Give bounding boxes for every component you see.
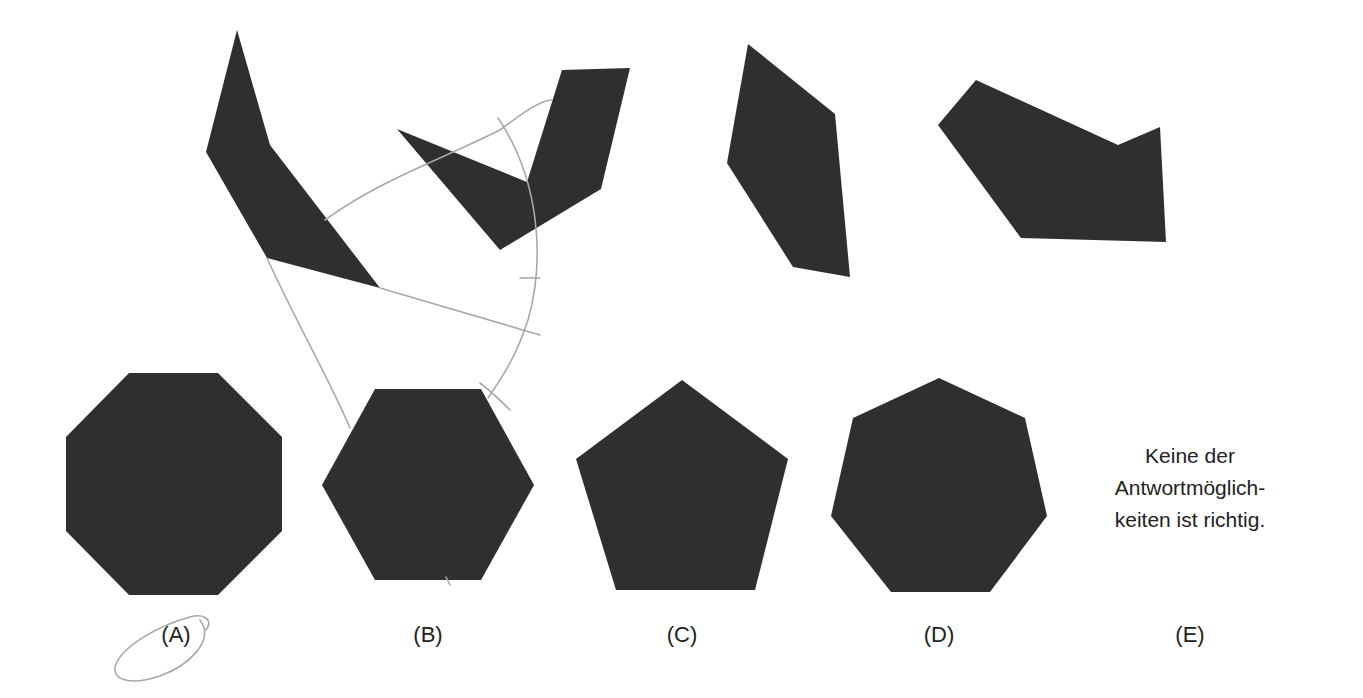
option-e-text-line-2: Antwortmöglich- [1075,472,1305,504]
option-a-octagon[interactable] [66,373,282,595]
puzzle-piece-4 [938,80,1166,242]
option-d-heptagon[interactable] [831,378,1047,592]
option-e-text[interactable]: Keine der Antwortmöglich- keiten ist ric… [1075,440,1305,536]
puzzle-piece-2 [397,68,630,250]
option-b-label[interactable]: (B) [388,622,468,648]
puzzle-piece-1 [206,30,380,288]
pencil-line-1 [267,258,350,428]
answer-options-shapes [66,373,1047,595]
option-d-label[interactable]: (D) [899,622,979,648]
option-c-label[interactable]: (C) [642,622,722,648]
option-e-text-line-3: keiten ist richtig. [1075,504,1305,536]
option-a-label[interactable]: (A) [136,622,216,648]
pencil-arc [488,118,537,398]
option-e-text-line-1: Keine der [1075,440,1305,472]
option-b-hexagon[interactable] [322,389,534,580]
shapes-canvas [0,0,1363,698]
puzzle-pieces [206,30,1166,288]
puzzle-piece-3 [727,44,850,277]
option-e-label[interactable]: (E) [1150,622,1230,648]
pencil-line-2 [380,288,540,335]
puzzle-stage: (A) (B) (C) (D) (E) Keine der Antwortmög… [0,0,1363,698]
option-c-pentagon[interactable] [576,380,788,590]
